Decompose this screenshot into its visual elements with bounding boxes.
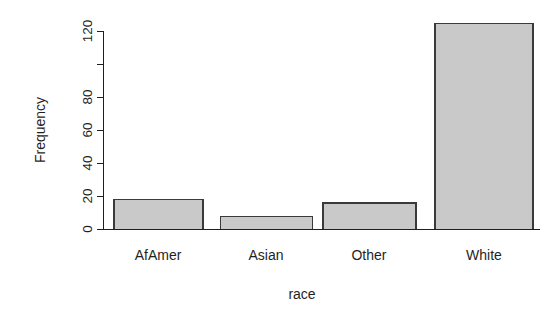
y-tick-label-80: 80 bbox=[80, 89, 95, 104]
x-tick-label-other: Other bbox=[351, 247, 386, 263]
x-axis-title: race bbox=[288, 286, 315, 302]
plot-canvas: 0 20 40 60 80 120 Frequency AfAmer Asian… bbox=[0, 0, 551, 317]
x-tick-label-afamer: AfAmer bbox=[135, 247, 182, 263]
bar-white[interactable] bbox=[435, 23, 533, 229]
y-tick-label-20: 20 bbox=[80, 188, 95, 203]
bar-afamer[interactable] bbox=[114, 200, 203, 230]
y-tick-label-0: 0 bbox=[80, 225, 95, 233]
y-axis-title: Frequency bbox=[32, 97, 48, 163]
x-tick-label-asian: Asian bbox=[248, 247, 283, 263]
y-tick-label-40: 40 bbox=[80, 155, 95, 170]
x-tick-label-white: White bbox=[466, 247, 502, 263]
y-tick-label-60: 60 bbox=[80, 122, 95, 137]
y-tick-label-120: 120 bbox=[80, 20, 95, 43]
bar-chart-figure: 0 20 40 60 80 120 Frequency AfAmer Asian… bbox=[0, 0, 551, 317]
bar-asian[interactable] bbox=[221, 216, 313, 229]
bar-other[interactable] bbox=[323, 203, 416, 229]
